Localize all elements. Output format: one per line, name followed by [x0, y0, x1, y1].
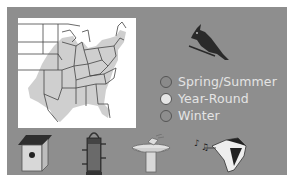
bird-feeder-icon — [82, 130, 106, 176]
winter-swatch — [160, 110, 172, 122]
year-round-swatch — [160, 93, 172, 105]
legend: Spring/Summer Year-Round Winter — [160, 73, 277, 124]
cardinal-icon — [185, 20, 235, 64]
spring-summer-swatch — [160, 76, 172, 88]
us-map-icon — [18, 18, 136, 128]
svg-text:♪: ♪ — [194, 138, 200, 148]
birdhouse-icon — [16, 133, 54, 173]
legend-label: Winter — [178, 108, 220, 123]
legend-item-winter: Winter — [160, 107, 277, 124]
legend-item-year-round: Year-Round — [160, 90, 277, 107]
legend-label: Year-Round — [178, 91, 249, 106]
range-map — [18, 18, 136, 128]
birdbath-icon — [130, 134, 172, 174]
legend-item-spring-summer: Spring/Summer — [160, 73, 277, 90]
svg-text:♫: ♫ — [201, 142, 209, 152]
legend-label: Spring/Summer — [178, 74, 277, 89]
bird-song-icon: ♪ ♫ — [194, 134, 250, 174]
